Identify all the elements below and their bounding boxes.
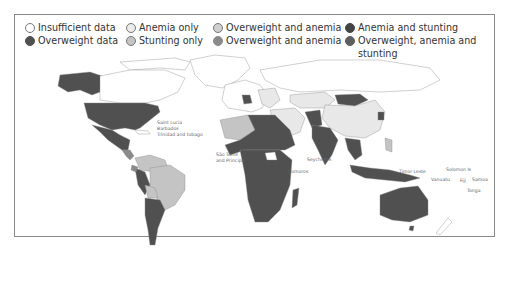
country-philippines — [385, 138, 392, 152]
label-seychelles: Seychelles — [307, 157, 332, 162]
label-sao-tome-2: and Principe — [216, 158, 245, 163]
country-new-zealand — [436, 218, 452, 235]
country-north-korea — [378, 112, 384, 120]
label-trinidad: Trinidad and tobago — [156, 132, 203, 137]
label-comoros: Comoros — [288, 169, 309, 174]
label-saint-lucia: Saint Lucia — [157, 120, 182, 125]
country-canada-arctic — [120, 58, 190, 70]
country-germany — [242, 95, 252, 104]
label-vanuatu: Vanuatu — [431, 177, 450, 182]
label-tonga: Tonga — [466, 188, 481, 193]
country-madagascar — [292, 188, 299, 208]
label-barbados: Barbados — [157, 126, 179, 131]
country-cuba — [135, 130, 150, 134]
country-se-asia — [345, 138, 362, 160]
label-sao-tome: São Tomé — [216, 152, 238, 157]
label-solomon: Solomon Is — [446, 167, 472, 172]
world-map: Saint Lucia Barbados Trinidad and tobago… — [0, 0, 512, 293]
country-argentina-chile — [145, 198, 165, 245]
country-africa-central — [240, 150, 292, 222]
country-canada — [100, 70, 185, 103]
country-south-sudan — [265, 152, 277, 160]
country-tasmania — [409, 226, 414, 231]
country-australia — [380, 186, 428, 222]
label-samoa: Samoa — [472, 177, 488, 182]
label-timor-leste: Timor Leste — [398, 169, 426, 174]
country-central-america — [122, 150, 134, 160]
country-russia — [260, 60, 440, 92]
country-alaska — [58, 72, 102, 95]
label-fiji: Fiji — [460, 178, 466, 183]
